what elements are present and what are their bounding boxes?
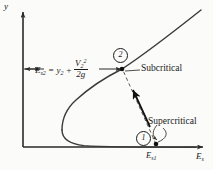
specific-energy-diagram: y Es Es1 Es2 = y2 + V222g 2 1 Subcritica… [0, 0, 213, 170]
point-1-marker [154, 142, 159, 147]
equation-equals: = [48, 65, 54, 75]
supercritical-leader-line [153, 125, 166, 142]
point-2-circled-number: 2 [113, 48, 128, 63]
supercritical-label: Supercritical [148, 117, 197, 127]
subcritical-label: Subcritical [141, 64, 182, 74]
x-axis-label: Es [196, 152, 204, 162]
x-tick-label-es1: Es1 [146, 151, 157, 161]
numerator-sup: 2 [84, 58, 87, 64]
fraction-denominator: 2g [74, 70, 88, 79]
diagram-canvas [0, 0, 213, 170]
specific-energy-curve-lower [62, 130, 196, 147]
equation-velocity-head-fraction: V222g [74, 58, 88, 79]
x-axis-label-sub: s [202, 156, 204, 162]
subcritical-leader-line [125, 70, 140, 71]
point-1-circled-number: 1 [136, 131, 151, 146]
y-axis-label: y [4, 2, 8, 11]
equation-plus: + [66, 65, 72, 75]
specific-energy-equation: Es2 = y2 + V222g [35, 58, 88, 79]
x-tick-label-sub: s1 [151, 155, 156, 161]
equation-term1-sub: 2 [60, 70, 63, 76]
point-2-marker [120, 67, 125, 72]
equation-lhs-sub: s2 [41, 70, 46, 76]
